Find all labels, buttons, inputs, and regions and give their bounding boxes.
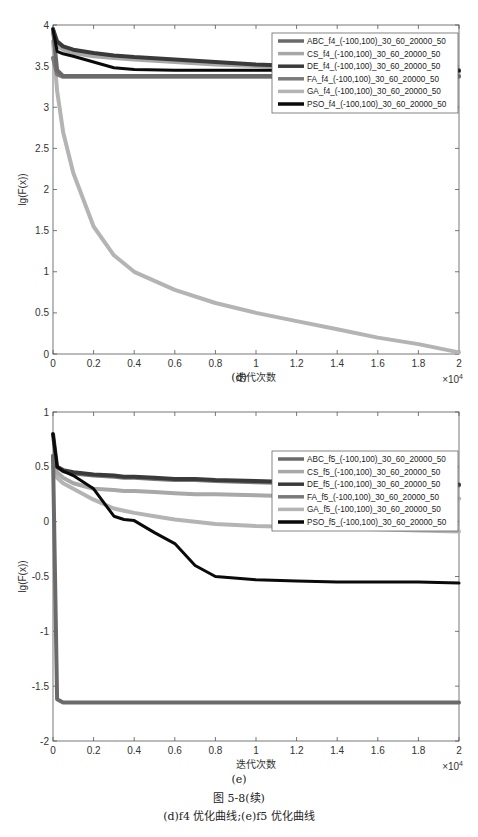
y-tick-label: 3.5 [35, 61, 49, 72]
x-tick-label: 2 [456, 358, 462, 369]
y-axis-label: lg(F(x)) [17, 560, 28, 592]
legend-entry: PSO_f4_(-100,100)_30_60_20000_50 [307, 100, 447, 109]
legend-entry: FA_f4_(-100,100)_30_60_20000_50 [307, 75, 439, 84]
x-tick-label: 0.4 [127, 745, 141, 756]
x-axis-multiplier: ×104 [442, 760, 463, 772]
legend-entry: CS_f5_(-100,100)_30_60_20000_50 [307, 468, 441, 477]
y-tick-label: 0 [43, 516, 49, 527]
x-axis-multiplier: ×104 [442, 373, 463, 385]
y-tick-label: 4 [43, 20, 49, 31]
x-tick-label: 1.4 [330, 358, 344, 369]
legend-entry: DE_f5_(-100,100)_30_60_20000_50 [307, 480, 441, 489]
legend-entry: FA_f5_(-100,100)_30_60_20000_50 [307, 493, 439, 502]
x-tick-label: 0.2 [87, 745, 101, 756]
chart-panel-d: 00.20.40.60.811.21.41.61.8200.511.522.53… [17, 20, 463, 386]
y-tick-label: 2 [43, 184, 49, 195]
legend-entry: PSO_f5_(-100,100)_30_60_20000_50 [307, 518, 447, 527]
legend-entry: DE_f4_(-100,100)_30_60_20000_50 [307, 62, 441, 71]
panel-label-e: (e) [231, 773, 246, 786]
y-tick-label: 0.5 [35, 461, 49, 472]
y-tick-label: -0.5 [32, 571, 50, 582]
x-tick-label: 2 [456, 745, 462, 756]
x-tick-label: 0.6 [168, 358, 182, 369]
x-tick-label: 1.4 [330, 745, 344, 756]
x-tick-label: 1.6 [371, 745, 385, 756]
x-tick-label: 0.8 [208, 745, 222, 756]
panel-label-d: (d) [231, 371, 247, 384]
x-tick-label: 1.2 [290, 745, 304, 756]
x-tick-label: 0.8 [208, 358, 222, 369]
x-tick-label: 0.2 [87, 358, 101, 369]
figure-canvas: 00.20.40.60.811.21.41.61.8200.511.522.53… [0, 0, 478, 837]
y-tick-label: 1 [43, 266, 49, 277]
y-tick-label: 0.5 [35, 307, 49, 318]
x-tick-label: 0 [50, 358, 56, 369]
x-tick-label: 0 [50, 745, 56, 756]
chart-panel-e: 00.20.40.60.811.21.41.61.82-2-1.5-1-0.50… [17, 407, 463, 773]
x-tick-label: 1.8 [411, 745, 425, 756]
y-axis-label: lg(F(x)) [17, 173, 28, 205]
y-tick-label: 0 [43, 349, 49, 360]
legend-entry: GA_f5_(-100,100)_30_60_20000_50 [307, 505, 441, 514]
x-tick-label: 0.4 [127, 358, 141, 369]
y-tick-label: 2.5 [35, 143, 49, 154]
legend-entry: GA_f4_(-100,100)_30_60_20000_50 [307, 87, 441, 96]
x-tick-label: 1.8 [411, 358, 425, 369]
figure-caption-title: 图 5-8(续) [213, 791, 265, 805]
y-tick-label: -2 [40, 736, 49, 747]
legend-entry: ABC_f4_(-100,100)_30_60_20000_50 [307, 37, 446, 46]
y-tick-label: 1 [43, 407, 49, 418]
y-tick-label: -1.5 [32, 681, 50, 692]
legend-entry: CS_f4_(-100,100)_30_60_20000_50 [307, 50, 441, 59]
legend-entry: ABC_f5_(-100,100)_30_60_20000_50 [307, 455, 446, 464]
x-tick-label: 1 [253, 358, 259, 369]
x-axis-label: 迭代次数 [236, 758, 276, 770]
y-tick-label: 3 [43, 102, 49, 113]
x-tick-label: 0.6 [168, 745, 182, 756]
x-tick-label: 1.2 [290, 358, 304, 369]
x-tick-label: 1.6 [371, 358, 385, 369]
y-tick-label: 1.5 [35, 225, 49, 236]
x-tick-label: 1 [253, 745, 259, 756]
y-tick-label: -1 [40, 626, 49, 637]
figure-caption-subtitle: (d)f4 优化曲线;(e)f5 优化曲线 [163, 809, 315, 823]
